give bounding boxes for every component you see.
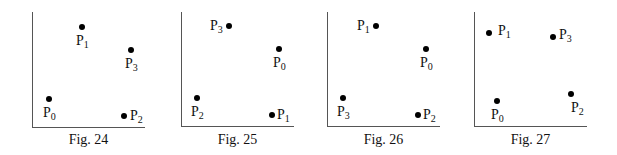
point-label: P1 — [76, 34, 89, 48]
point-label: P2 — [191, 105, 204, 119]
point-dot — [269, 112, 275, 118]
point-label: P1 — [357, 19, 370, 33]
point-dot — [340, 95, 346, 101]
point-dot — [550, 34, 556, 40]
point-dot — [194, 95, 200, 101]
point-label: P2 — [571, 101, 584, 115]
x-axis — [181, 126, 294, 127]
point-dot — [46, 96, 52, 102]
figure-caption: Fig. 25 — [218, 132, 258, 148]
point-dot — [494, 98, 500, 104]
point-dot — [128, 47, 134, 53]
point-label: P0 — [273, 56, 286, 70]
y-axis — [32, 12, 33, 127]
point-label: P1 — [498, 24, 511, 38]
point-label: P3 — [210, 19, 223, 33]
y-axis — [327, 12, 328, 126]
point-label: P1 — [277, 108, 290, 122]
point-dot — [79, 24, 85, 30]
figure-caption: Fig. 24 — [69, 132, 109, 148]
figure-caption: Fig. 26 — [364, 132, 404, 148]
point-dot — [121, 113, 127, 119]
y-axis — [181, 12, 182, 126]
point-dot — [423, 46, 429, 52]
point-label: P0 — [491, 108, 504, 122]
point-dot — [373, 23, 379, 29]
point-label: P2 — [130, 109, 143, 123]
point-label: P3 — [337, 105, 350, 119]
point-label: P3 — [559, 28, 572, 42]
point-dot — [276, 46, 282, 52]
figure-caption: Fig. 27 — [511, 132, 551, 148]
point-label: P0 — [43, 106, 56, 120]
point-dot — [226, 23, 232, 29]
x-axis — [32, 127, 145, 128]
point-dot — [486, 30, 492, 36]
point-label: P0 — [420, 56, 433, 70]
y-axis — [474, 12, 475, 126]
x-axis — [327, 126, 440, 127]
point-dot — [568, 91, 574, 97]
point-dot — [415, 112, 421, 118]
point-label: P2 — [423, 108, 436, 122]
x-axis — [474, 126, 587, 127]
point-label: P3 — [125, 57, 138, 71]
